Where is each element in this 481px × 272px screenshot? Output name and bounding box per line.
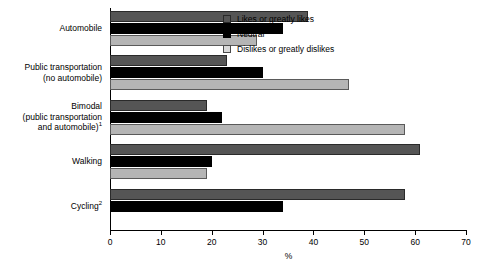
- x-tick: [212, 231, 213, 235]
- x-tick: [161, 231, 162, 235]
- category-label: Walking: [0, 156, 102, 167]
- x-tick: [313, 231, 314, 235]
- x-tick-label: 0: [97, 237, 123, 247]
- x-tick-label: 30: [250, 237, 276, 247]
- legend-item: Likes or greatly likes: [223, 12, 423, 25]
- legend-swatch-icon: [223, 15, 231, 23]
- legend-label: Neutral: [237, 29, 264, 39]
- category-label: Public transportation(no automobile): [0, 62, 102, 83]
- category-label-line: (no automobile): [0, 73, 102, 84]
- x-tick-label: 70: [453, 237, 479, 247]
- x-tick: [110, 231, 111, 235]
- category-label-line: Walking: [0, 156, 102, 167]
- x-tick: [415, 231, 416, 235]
- chart-legend: Likes or greatly likesNeutralDislikes or…: [223, 12, 423, 57]
- category-label-line: and automobile)1: [0, 122, 102, 133]
- x-tick-label: 20: [199, 237, 225, 247]
- bar: [110, 156, 212, 167]
- bar: [110, 100, 207, 111]
- footnote-marker: 1: [99, 121, 102, 127]
- category-label-line: Cycling2: [0, 201, 102, 212]
- bar: [110, 189, 405, 200]
- bar: [110, 168, 207, 179]
- x-tick-label: 50: [351, 237, 377, 247]
- bar: [110, 124, 405, 135]
- bar: [110, 79, 349, 90]
- bar: [110, 55, 227, 66]
- footnote-marker: 2: [99, 200, 102, 206]
- category-label-line: Public transportation: [0, 62, 102, 73]
- category-label-line: Automobile: [0, 23, 102, 34]
- x-tick: [466, 231, 467, 235]
- bar: [110, 112, 222, 123]
- x-tick: [263, 231, 264, 235]
- bar-chart: AutomobilePublic transportation(no autom…: [0, 0, 481, 272]
- legend-item: Neutral: [223, 27, 423, 40]
- bar: [110, 201, 283, 212]
- bar: [110, 67, 263, 78]
- bar: [110, 144, 420, 155]
- legend-swatch-icon: [223, 45, 231, 53]
- category-label: Bimodal(public transportationand automob…: [0, 101, 102, 133]
- category-label: Automobile: [0, 23, 102, 34]
- x-tick-label: 10: [148, 237, 174, 247]
- x-tick: [364, 231, 365, 235]
- x-tick-label: 40: [300, 237, 326, 247]
- x-axis-line: [110, 230, 467, 231]
- x-axis-title: %: [110, 251, 467, 261]
- category-label-line: (public transportation: [0, 112, 102, 123]
- category-label-line: Bimodal: [0, 101, 102, 112]
- legend-item: Dislikes or greatly dislikes: [223, 42, 423, 55]
- legend-label: Dislikes or greatly dislikes: [237, 44, 334, 54]
- category-label: Cycling2: [0, 201, 102, 212]
- category-axis-labels: AutomobilePublic transportation(no autom…: [0, 8, 106, 230]
- legend-label: Likes or greatly likes: [237, 14, 314, 24]
- legend-swatch-icon: [223, 30, 231, 38]
- x-tick-label: 60: [402, 237, 428, 247]
